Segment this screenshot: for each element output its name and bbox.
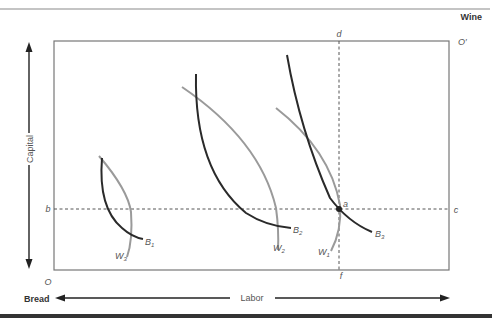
point-b-label: b [45,204,50,214]
bottom-rule [0,314,492,318]
point-d-label: d [336,29,342,39]
isoquant-b1 [101,158,143,239]
arrow-right-icon [440,295,450,302]
edgeworth-box [54,41,449,270]
b2-label: B2 [293,225,303,236]
wine-label: Wine [461,12,482,22]
bread-label: Bread [24,294,50,304]
point-a-label: a [343,199,348,209]
isoquant-w2 [182,87,278,250]
labor-label: Labor [240,293,263,303]
isoquant-b2 [196,74,291,228]
point-f-label: f [340,271,344,281]
edgeworth-box-diagram: Wine Bread Labor Capital O O′ b c d f a … [0,0,499,326]
capital-label: Capital [25,135,35,163]
origin-o-prime-label: O′ [458,37,467,47]
point-c-label: c [454,205,459,215]
arrow-up-icon [26,42,33,52]
arrow-left-icon [55,295,65,302]
isoquant-b3 [287,55,372,232]
w2-label: W2 [273,243,286,254]
b3-label: B3 [375,229,385,240]
isoquant-w1 [276,108,340,251]
isoquant-w3 [99,156,132,257]
arrow-down-icon [26,259,33,269]
w3-label: W3 [115,251,128,262]
w1-label: W1 [318,247,330,258]
origin-o-label: O [44,277,51,287]
tangency-point-a [336,206,342,212]
b1-label: B1 [145,237,154,248]
